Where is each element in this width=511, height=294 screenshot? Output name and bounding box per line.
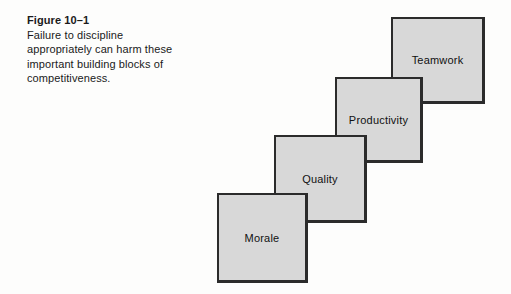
block-teamwork-label: Teamwork: [412, 54, 464, 66]
block-productivity-label: Productivity: [349, 114, 408, 126]
figure-caption-text: Failure to discipline appropriately can …: [27, 28, 191, 86]
figure-number: Figure 10–1: [27, 13, 191, 28]
figure-caption: Figure 10–1 Failure to discipline approp…: [27, 13, 191, 86]
block-morale: Morale: [217, 193, 308, 283]
block-quality-label: Quality: [302, 173, 338, 185]
block-morale-label: Morale: [245, 232, 280, 244]
